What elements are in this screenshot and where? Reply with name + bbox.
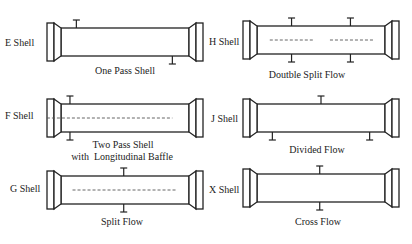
- shell-types-diagram: E Shell One Pass Shell H Shell Doutble S…: [0, 0, 412, 244]
- h-bottom-nozzle-1: [347, 54, 354, 62]
- g-left-head: [54, 171, 61, 209]
- h-left-head: [250, 21, 257, 59]
- h-top-nozzle-1: [347, 18, 354, 26]
- shell-label-f: F Shell: [5, 110, 34, 121]
- e-right-head: [189, 23, 196, 61]
- x-right-head: [385, 169, 392, 207]
- f-right-head: [189, 99, 196, 137]
- j-right-head: [385, 99, 392, 137]
- shell-label-x: X Shell: [209, 184, 240, 195]
- j-shell-body: [257, 104, 385, 132]
- g-right-head: [189, 171, 196, 209]
- j-right-flange: [392, 99, 399, 137]
- h-top-nozzle-0: [288, 18, 295, 26]
- shell-caption-f-line1: Two Pass Shell: [93, 139, 154, 150]
- g-top-nozzle-0: [120, 168, 127, 176]
- e-shell-group: E Shell One Pass Shell: [5, 20, 203, 76]
- x-left-flange: [243, 169, 250, 207]
- g-shell-drawing: [47, 168, 203, 212]
- h-left-flange: [243, 21, 250, 59]
- h-shell-drawing: [243, 18, 399, 62]
- shell-label-j: J Shell: [211, 113, 238, 124]
- f-top-nozzle-0: [66, 96, 73, 104]
- h-bottom-nozzle-0: [288, 54, 295, 62]
- shell-label-h: H Shell: [209, 36, 240, 47]
- x-bottom-nozzle-0: [316, 202, 323, 210]
- shell-label-e: E Shell: [5, 37, 34, 48]
- e-left-flange: [47, 23, 54, 61]
- shell-label-g: G Shell: [10, 183, 41, 194]
- j-shell-group: J Shell Divided Flow: [211, 96, 399, 155]
- f-shell-group: F Shell Two Pass Shell with Longitudinal…: [5, 96, 203, 162]
- g-right-flange: [196, 171, 203, 209]
- e-shell-body: [61, 28, 189, 56]
- x-shell-group: X Shell Cross Flow: [209, 166, 399, 227]
- e-shell-drawing: [47, 20, 203, 64]
- h-shell-group: H Shell Doutble Split Flow: [209, 18, 399, 80]
- f-bottom-nozzle-0: [66, 132, 73, 140]
- g-bottom-nozzle-0: [120, 204, 127, 212]
- x-left-head: [250, 169, 257, 207]
- j-bottom-nozzle-0: [269, 132, 276, 140]
- e-left-head: [54, 23, 61, 61]
- shell-caption-e: One Pass Shell: [95, 65, 155, 76]
- j-left-head: [250, 99, 257, 137]
- x-shell-drawing: [243, 166, 399, 210]
- x-right-flange: [392, 169, 399, 207]
- g-shell-group: G Shell Split Flow: [10, 168, 203, 227]
- g-left-flange: [47, 171, 54, 209]
- shell-caption-j: Divided Flow: [289, 144, 345, 155]
- j-top-nozzle-0: [318, 96, 325, 104]
- x-top-nozzle-0: [316, 166, 323, 174]
- x-shell-body: [257, 174, 385, 202]
- j-shell-drawing: [243, 96, 399, 140]
- e-bottom-nozzle-0: [169, 56, 176, 64]
- shell-caption-g: Split Flow: [101, 216, 144, 227]
- f-right-flange: [196, 99, 203, 137]
- shell-caption-x: Cross Flow: [295, 216, 342, 227]
- h-right-flange: [392, 21, 399, 59]
- shell-caption-h: Doutble Split Flow: [269, 69, 346, 80]
- e-right-flange: [196, 23, 203, 61]
- shell-caption-f-line2: with Longitudinal Baffle: [71, 151, 173, 162]
- j-bottom-nozzle-1: [366, 132, 373, 140]
- f-shell-drawing: [47, 96, 203, 140]
- e-top-nozzle-0: [73, 20, 80, 28]
- j-left-flange: [243, 99, 250, 137]
- h-right-head: [385, 21, 392, 59]
